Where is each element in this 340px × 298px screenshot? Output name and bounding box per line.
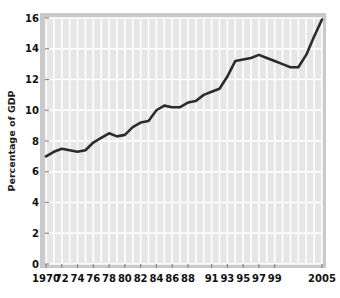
x-tick-label: 88 (181, 273, 195, 284)
x-tick-label: 93 (220, 273, 234, 284)
y-tick-label: 8 (32, 136, 39, 147)
y-tick-label: 0 (32, 259, 39, 270)
x-tick-label: 78 (102, 273, 116, 284)
x-tick-label: 99 (268, 273, 282, 284)
x-tick-label: 82 (134, 273, 148, 284)
y-tick-label: 14 (25, 43, 39, 54)
y-tick-label: 16 (25, 13, 39, 24)
x-tick-label: 86 (165, 273, 179, 284)
x-tick-label: 84 (149, 273, 163, 284)
x-tick-label: 80 (118, 273, 132, 284)
x-tick-label: 91 (205, 273, 219, 284)
x-tick-label: 2005 (308, 273, 336, 284)
y-tick-label: 10 (25, 105, 39, 116)
x-tick-label: 74 (71, 273, 85, 284)
line-chart: 0246810121416 19707274767880828486889193… (0, 0, 340, 298)
y-tick-label: 6 (32, 166, 39, 177)
y-tick-label: 4 (32, 197, 39, 208)
chart-container: 0246810121416 19707274767880828486889193… (0, 0, 340, 298)
y-tick-label: 2 (32, 228, 39, 239)
x-tick-label: 97 (252, 273, 266, 284)
x-axis-tick-labels: 197072747678808284868891939597992005 (32, 273, 336, 284)
x-tick-label: 72 (55, 273, 69, 284)
y-axis-tick-labels: 0246810121416 (25, 13, 39, 270)
y-axis-title: Percentage of GDP (6, 90, 17, 191)
y-tick-label: 12 (25, 74, 39, 85)
x-tick-label: 76 (86, 273, 100, 284)
x-tick-label: 95 (236, 273, 250, 284)
